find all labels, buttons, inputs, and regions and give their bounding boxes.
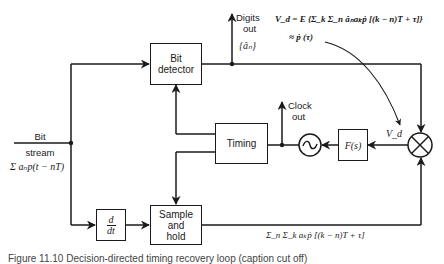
bottom-expression: Σ_n Σ_k aₖṗ [(k − n)T + τ] [266, 230, 365, 240]
figure-caption: Figure 11.10 Decision-directed timing re… [8, 253, 307, 264]
input-label: Bit [20, 131, 60, 142]
digits-out-label: Digits [236, 12, 260, 23]
input-expression: Σ aₙp(t − nT) [10, 161, 64, 172]
clock-out-label: Clock [288, 100, 312, 111]
clock-out-label-2: out [292, 111, 305, 122]
loop-filter-block: F(s) [338, 129, 368, 161]
input-label-2: stream [12, 147, 68, 158]
derivative-block: ddt [96, 209, 126, 241]
digits-out-symbol: {âₙ} [239, 40, 256, 51]
digits-out-label-2: out [243, 23, 256, 34]
sample-and-hold-block: Sampleandhold [150, 205, 202, 245]
bit-detector-block: Bitdetector [150, 43, 202, 85]
sine-wave-icon [303, 141, 317, 148]
vd-equation: V_d = E {Σ_k Σ_n âₙaₖṗ [(k − n)T + τ]} [275, 14, 423, 24]
timing-block: Timing [215, 123, 268, 164]
vd-label: V_d [386, 128, 402, 139]
vd-approximation: ≈ ṗ (τ) [289, 32, 313, 42]
